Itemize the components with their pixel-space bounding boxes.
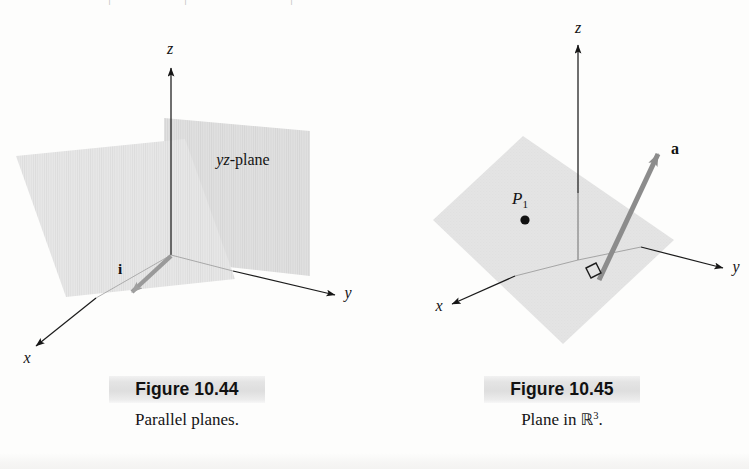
axis-y-label: y [730, 258, 740, 276]
figure-10-44-caption: Figure 10.44 Parallel planes. [0, 376, 374, 430]
figure-10-45-caption-title: Figure 10.45 [484, 376, 639, 403]
figure-10-45: P1 z y x a Figure 10.45 Plane in ℝ3. [375, 0, 749, 469]
axis-z-label: z [166, 40, 174, 57]
figure-10-44-artwork: z y x yz-plane i [0, 8, 374, 378]
axis-x-label: x [22, 349, 30, 366]
yz-plane-label: yz-plane [214, 151, 269, 169]
figure-10-44: z y x yz-plane i Figure 10.44 Parallel p… [0, 0, 374, 469]
caption-text-suffix: . [599, 410, 603, 429]
figure-10-44-caption-text: Parallel planes. [0, 410, 374, 430]
caption-text-prefix: Plane in [521, 410, 581, 429]
blackboard-r-glyph: ℝ [581, 410, 594, 429]
vector-a-label: a [671, 140, 679, 157]
axis-y-label: y [342, 284, 352, 302]
axis-x-line [36, 298, 96, 346]
blackboard-r-symbol: ℝ3 [581, 410, 599, 429]
figure-10-44-caption-title: Figure 10.44 [109, 376, 264, 403]
axis-x-line [452, 276, 515, 304]
vector-i-label: i [118, 261, 122, 277]
plane-surface [433, 136, 674, 344]
figure-10-45-caption: Figure 10.45 Plane in ℝ3. [375, 376, 749, 430]
figure-10-45-caption-text: Plane in ℝ3. [375, 410, 749, 430]
axis-y-line [233, 271, 335, 295]
axis-z-label: z [574, 19, 582, 36]
point-p1-dot [520, 215, 529, 224]
figure-10-45-artwork: P1 z y x a [375, 8, 749, 378]
axis-x-label: x [434, 297, 442, 314]
